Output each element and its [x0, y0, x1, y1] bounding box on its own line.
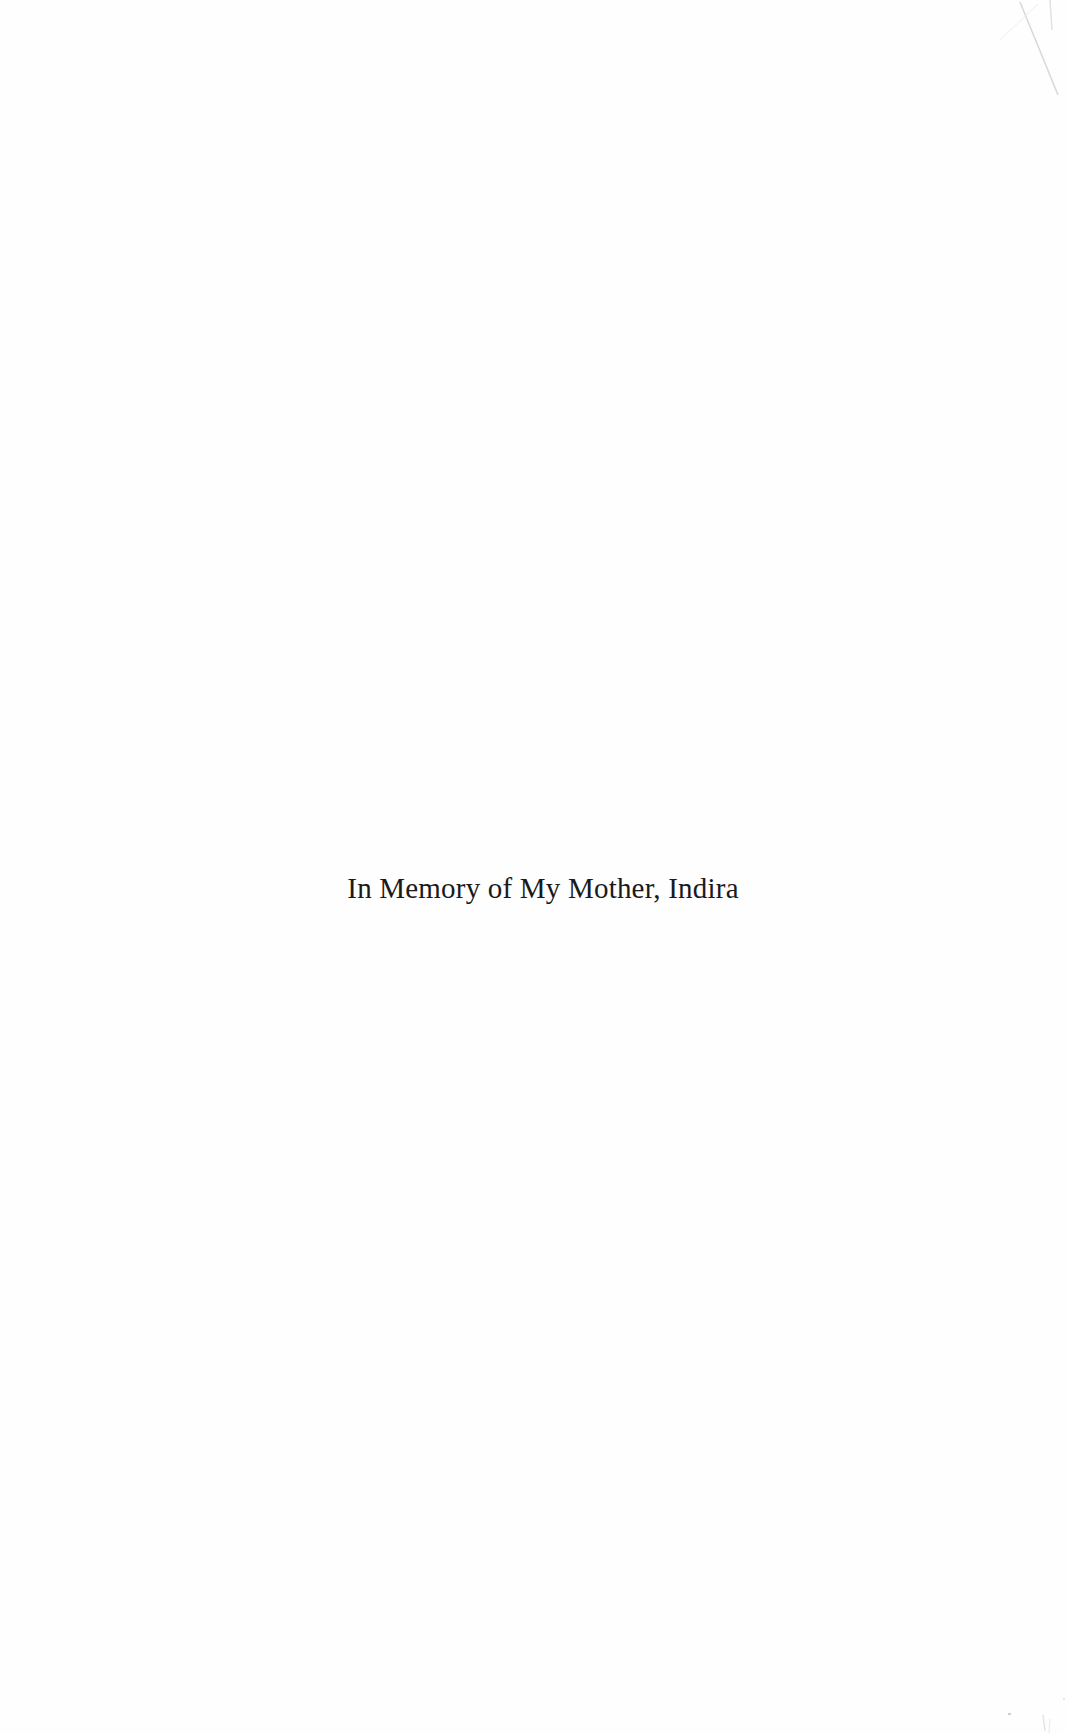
scan-artifact-top-right — [978, 0, 1068, 110]
scan-artifact-bottom-right — [968, 1643, 1068, 1733]
dedication-text: In Memory of My Mother, Indira — [0, 868, 1068, 908]
book-page: In Memory of My Mother, Indira — [0, 0, 1068, 1733]
